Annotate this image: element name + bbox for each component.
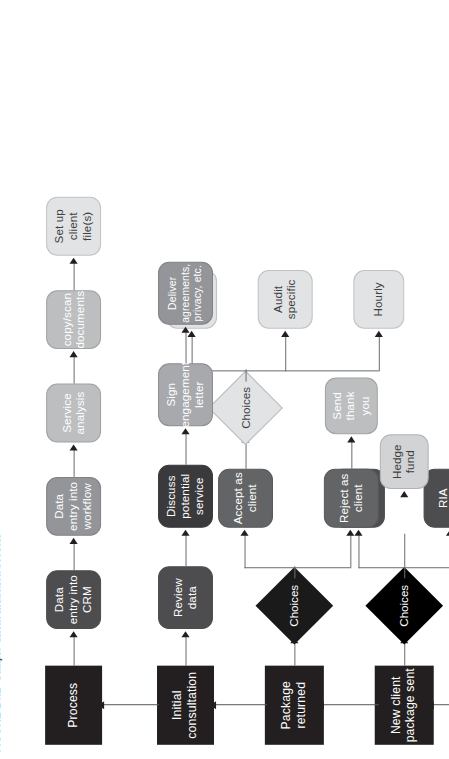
connector — [186, 331, 187, 363]
step-data-entry-crm: Data entry into CRM — [46, 570, 101, 629]
connector — [186, 432, 187, 464]
stage-process: Process — [45, 666, 102, 745]
figure-caption: FIGURE 14.2Sample Client Induction Proce… — [0, 534, 2, 753]
step-send-thank-you: Send thank you — [325, 377, 378, 434]
connector — [186, 534, 187, 566]
arrowhead-icon — [181, 428, 189, 434]
connector — [404, 534, 405, 579]
connector — [404, 641, 405, 665]
arrowhead-icon — [181, 327, 189, 333]
arrowhead-icon — [347, 436, 355, 442]
outcome-hourly: Hourly — [353, 270, 404, 329]
arrowhead-icon — [346, 530, 354, 536]
connector — [358, 534, 359, 569]
arrowhead-icon — [400, 491, 408, 497]
connector — [285, 335, 286, 372]
step-deliver-agreements: Deliver agreements, privacy, etc. — [158, 262, 213, 325]
connector — [74, 635, 75, 665]
connector — [432, 704, 449, 705]
connector — [74, 449, 75, 477]
connector — [246, 369, 247, 381]
arrowhead-icon — [375, 331, 383, 337]
step-set-up-client-files: Set up client file(s) — [46, 197, 101, 256]
branch-reject-as-client: Reject as client — [324, 469, 379, 528]
connector — [379, 335, 380, 372]
connector — [350, 534, 351, 569]
figure-number: FIGURE 14.2 — [0, 688, 2, 753]
flowchart-wrapper: Initial contact Phone call E-mail Semina… — [38, 0, 449, 759]
arrowhead-icon — [354, 530, 362, 536]
connector — [214, 704, 267, 705]
step-copy-scan-documents: copy/scan documents — [46, 290, 101, 349]
connector — [74, 262, 75, 290]
outcome-audit-specific: Audit specific — [258, 270, 313, 329]
connector — [74, 355, 75, 383]
arrowhead-icon — [70, 351, 78, 357]
figure-page: FIGURE 14.2Sample Client Induction Proce… — [0, 0, 449, 759]
arrowhead-icon — [70, 538, 78, 544]
step-service-analysis: Service analysis — [46, 384, 101, 443]
connector — [294, 566, 295, 578]
arrowhead-icon — [181, 530, 189, 536]
flowchart: Initial contact Phone call E-mail Semina… — [38, 0, 449, 759]
connector — [186, 635, 187, 665]
connector — [322, 704, 379, 705]
arrowhead-icon — [70, 631, 78, 637]
connector — [245, 534, 246, 569]
arrowhead-icon — [70, 444, 78, 450]
connector — [351, 440, 352, 468]
arrowhead-icon — [240, 530, 248, 536]
stage-new-client-package-sent: New client package sent — [375, 666, 434, 745]
decision-choices-returned: Choices — [267, 578, 322, 633]
connector — [102, 704, 159, 705]
arrowhead-icon — [70, 258, 78, 264]
decision-choices-package: Choices — [377, 578, 432, 633]
figure-title: Sample Client Induction Process — [0, 534, 2, 688]
arrowhead-icon — [181, 631, 189, 637]
step-review-data: Review data — [158, 566, 213, 629]
step-data-entry-workflow: Data entry into workflow — [46, 477, 101, 536]
step-discuss-potential-service: Discuss potential service — [158, 465, 213, 528]
stage-package-returned: Package returned — [265, 666, 324, 745]
connector — [245, 567, 351, 568]
connector — [74, 542, 75, 570]
branch-accept-as-client: Accept as client — [218, 469, 273, 528]
stage-initial-consultation: Initial consultation — [157, 666, 214, 745]
arrowhead-icon — [281, 331, 289, 337]
connector — [294, 641, 295, 665]
step-sign-engagement-letter: Sign engagement letter — [158, 363, 213, 426]
branch-hedge-fund: Hedge fund — [380, 434, 429, 489]
decision-choices-fee: Choices — [219, 382, 272, 435]
